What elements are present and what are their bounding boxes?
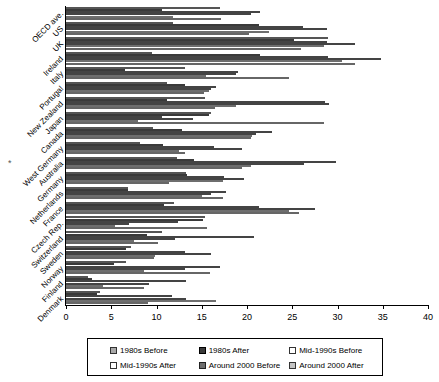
- x-axis-tick: [202, 305, 203, 309]
- legend-item-around2000-after: Around 2000 After: [289, 361, 376, 370]
- chart-legend: 1980s Before 1980s After Mid-1990s Befor…: [87, 338, 383, 376]
- x-axis-tick: [338, 305, 339, 309]
- bar: [66, 182, 169, 184]
- bar: [66, 33, 249, 35]
- x-axis-tick: [111, 305, 112, 309]
- bar-group: [66, 185, 428, 200]
- footnote-asterisk: *: [8, 158, 12, 168]
- legend-label: Around 2000 Before: [209, 361, 281, 370]
- bar-group: [66, 215, 428, 230]
- legend-swatch-icon: [110, 347, 117, 354]
- bar: [66, 242, 158, 244]
- legend-item-around2000-before: Around 2000 Before: [199, 361, 289, 370]
- x-axis-tick: [157, 305, 158, 309]
- x-axis-tick-label: 25: [287, 312, 297, 322]
- bar-group: [66, 126, 428, 141]
- legend-swatch-icon: [110, 362, 117, 369]
- x-axis-tick-label: 35: [378, 312, 388, 322]
- bar-group: [66, 156, 428, 171]
- legend-item-1980s-after: 1980s After: [199, 346, 289, 355]
- bar: [66, 122, 324, 124]
- legend-label: Around 2000 After: [299, 361, 364, 370]
- bar-group: [66, 290, 428, 305]
- legend-swatch-icon: [289, 347, 296, 354]
- bar-group: [66, 21, 428, 36]
- legend-item-mid1990s-before: Mid-1990s Before: [289, 346, 376, 355]
- x-axis-tick: [292, 305, 293, 309]
- x-axis-tick: [383, 305, 384, 309]
- bar-group: [66, 230, 428, 245]
- bar-group: [66, 111, 428, 126]
- x-axis-tick-label: 0: [63, 312, 68, 322]
- bar-group: [66, 170, 428, 185]
- bar-chart: * 0510152025303540 OECD ave.USUKIrelandI…: [0, 0, 439, 382]
- legend-row-2: Mid-1990s After Around 2000 Before Aroun…: [94, 358, 376, 373]
- legend-row-1: 1980s Before 1980s After Mid-1990s Befor…: [94, 343, 376, 358]
- x-axis-tick: [66, 305, 67, 309]
- bar-group: [66, 141, 428, 156]
- x-axis-tick-label: 30: [332, 312, 342, 322]
- bar-group: [66, 200, 428, 215]
- bar: [66, 107, 215, 109]
- legend-label: Mid-1990s After: [120, 361, 176, 370]
- bar: [66, 287, 144, 289]
- bar: [66, 18, 221, 20]
- legend-label: 1980s Before: [120, 346, 168, 355]
- bar-group: [66, 96, 428, 111]
- bar: [66, 77, 289, 79]
- bar: [66, 197, 223, 199]
- legend-label: Mid-1990s Before: [299, 346, 362, 355]
- x-axis-tick-label: 15: [197, 312, 207, 322]
- bar-group: [66, 260, 428, 275]
- bar: [66, 212, 299, 214]
- bar-group: [66, 275, 428, 290]
- bar-group: [66, 245, 428, 260]
- bar-group: [66, 81, 428, 96]
- bar: [66, 227, 207, 229]
- bar: [66, 302, 148, 304]
- x-axis-tick: [428, 305, 429, 309]
- bar: [66, 257, 154, 259]
- bar: [66, 272, 210, 274]
- bar: [66, 152, 185, 154]
- bar-group: [66, 51, 428, 66]
- plot-area: 0510152025303540: [66, 6, 428, 305]
- bar-group: [66, 6, 428, 21]
- legend-item-mid1990s-after: Mid-1990s After: [94, 361, 199, 370]
- x-axis-tick-label: 5: [109, 312, 114, 322]
- bar: [66, 63, 355, 65]
- bar-group: [66, 36, 428, 51]
- x-axis-tick-label: 20: [242, 312, 252, 322]
- legend-label: 1980s After: [209, 346, 249, 355]
- legend-swatch-icon: [199, 362, 206, 369]
- legend-item-1980s-before: 1980s Before: [94, 346, 199, 355]
- bar: [66, 167, 242, 169]
- bar: [66, 137, 251, 139]
- bar-group: [66, 66, 428, 81]
- legend-swatch-icon: [289, 362, 296, 369]
- bar: [66, 92, 204, 94]
- bar: [66, 48, 301, 50]
- legend-swatch-icon: [199, 347, 206, 354]
- x-axis-tick-label: 40: [423, 312, 433, 322]
- x-axis-tick-label: 10: [151, 312, 161, 322]
- x-axis-tick: [247, 305, 248, 309]
